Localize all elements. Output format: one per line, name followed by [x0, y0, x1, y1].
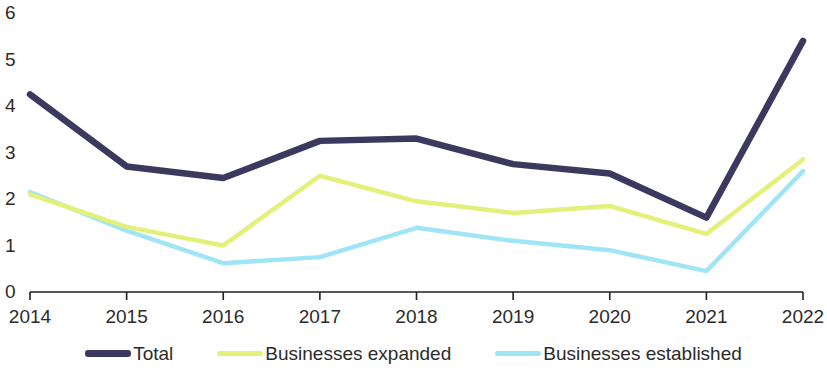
- legend-item[interactable]: Businesses established: [495, 343, 742, 364]
- x-tick-label: 2016: [183, 307, 263, 326]
- legend-item[interactable]: Total: [85, 343, 173, 364]
- series-line: [30, 41, 803, 218]
- x-axis: [30, 292, 803, 300]
- legend-swatch-icon: [217, 351, 263, 356]
- legend-label: Businesses established: [543, 343, 742, 364]
- legend-item[interactable]: Businesses expanded: [217, 343, 451, 364]
- x-tick-label: 2017: [280, 307, 360, 326]
- series-line: [30, 171, 803, 271]
- line-chart: 0123456 20142015201620172018201920202021…: [0, 0, 827, 370]
- x-tick-label: 2018: [377, 307, 457, 326]
- chart-legend: TotalBusinesses expandedBusinesses estab…: [0, 336, 827, 370]
- x-tick-label: 2021: [666, 307, 746, 326]
- x-tick-label: 2015: [87, 307, 167, 326]
- legend-label: Businesses expanded: [265, 343, 451, 364]
- x-tick-label: 2020: [570, 307, 650, 326]
- x-tick-label: 2014: [0, 307, 70, 326]
- series-line: [30, 159, 803, 245]
- legend-label: Total: [133, 343, 173, 364]
- x-tick-label: 2022: [763, 307, 827, 326]
- x-tick-label: 2019: [473, 307, 553, 326]
- legend-swatch-icon: [85, 350, 131, 357]
- legend-swatch-icon: [495, 351, 541, 356]
- series-group: [30, 41, 803, 271]
